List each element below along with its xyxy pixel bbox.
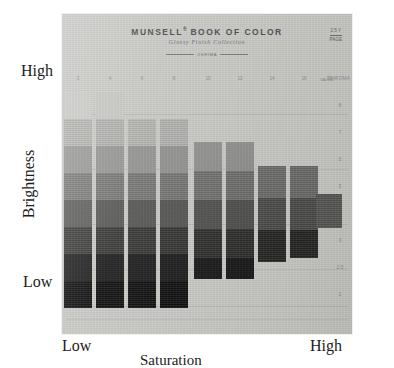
color-chip-chroma-16-value-5 [290,166,318,198]
color-chip-chroma-2-value-8 [64,92,92,119]
color-chip-chroma-4-value-2.5 [96,254,124,281]
color-chip-chroma-8-value-3 [160,227,188,254]
color-chip-chroma-16-value-4 [290,198,318,230]
color-chip-chroma-14-value-5 [258,166,286,198]
color-chip-chroma-18-value-4 [316,194,342,228]
munsell-color-card: MUNSELL® BOOK OF COLOR Glossy Finish Col… [62,14,352,334]
x-axis-low-label: Low [62,337,91,355]
color-chip-chroma-8-value-7 [160,119,188,146]
x-axis-title: Saturation [140,352,202,368]
color-chip-chroma-4-value-2 [96,281,124,308]
color-chip-chroma-12-value-2.5 [226,258,254,279]
color-chip-chroma-12-value-6 [226,142,254,171]
color-chip-chroma-4-value-6 [96,146,124,173]
color-chip-chroma-10-value-3 [194,229,222,258]
color-chip-chroma-6-value-3 [128,227,156,254]
color-chip-chroma-4-value-7 [96,119,124,146]
color-chip-chroma-2-value-4 [64,200,92,227]
color-chip-chroma-2-value-6 [64,146,92,173]
color-chip-chroma-8-value-6 [160,146,188,173]
color-chip-chroma-12-value-4 [226,200,254,229]
y-axis-low-label: Low [23,273,52,291]
y-axis-high-label: High [21,62,53,80]
color-chip-chroma-12-value-5 [226,171,254,200]
color-chip-chroma-10-value-2.5 [194,258,222,279]
color-chip-chroma-6-value-2 [128,281,156,308]
color-chip-chroma-6-value-5 [128,173,156,200]
color-chip-chroma-4-value-8 [96,92,124,119]
color-chip-chroma-8-value-4 [160,200,188,227]
swatch-grid [62,14,352,334]
color-chip-chroma-2-value-2 [64,281,92,308]
color-chip-chroma-2-value-2.5 [64,254,92,281]
color-chip-chroma-12-value-3 [226,229,254,258]
color-chip-chroma-4-value-5 [96,173,124,200]
color-chip-chroma-10-value-4 [194,200,222,229]
color-chip-chroma-4-value-4 [96,200,124,227]
color-chip-chroma-8-value-2 [160,281,188,308]
color-chip-chroma-8-value-5 [160,173,188,200]
color-chip-chroma-2-value-3 [64,227,92,254]
x-axis-high-label: High [310,337,342,355]
color-chip-chroma-4-value-3 [96,227,124,254]
color-chip-chroma-6-value-6 [128,146,156,173]
figure-root: High Brightness Low Low High Saturation … [0,0,394,368]
color-chip-chroma-2-value-5 [64,173,92,200]
color-chip-chroma-14-value-3 [258,230,286,262]
color-chip-chroma-10-value-5 [194,171,222,200]
color-chip-chroma-6-value-4 [128,200,156,227]
color-chip-chroma-6-value-7 [128,119,156,146]
color-chip-chroma-14-value-4 [258,198,286,230]
color-chip-chroma-6-value-2.5 [128,254,156,281]
color-chip-chroma-16-value-3 [290,230,318,258]
color-chip-chroma-10-value-6 [194,142,222,171]
y-axis-title: Brightness [20,139,38,229]
color-chip-chroma-8-value-2.5 [160,254,188,281]
color-chip-chroma-2-value-7 [64,119,92,146]
